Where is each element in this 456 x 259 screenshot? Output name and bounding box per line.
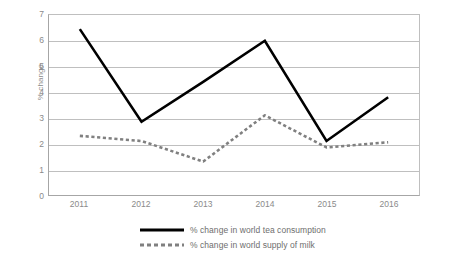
dotted-line-swatch [140, 240, 184, 250]
line-chart: % change 01234567 2011201220132014201520… [0, 0, 456, 259]
y-tick-label: 7 [26, 10, 44, 19]
x-tick-label: 2011 [70, 200, 88, 209]
series-line-milk-supply [80, 115, 388, 161]
x-tick-label: 2013 [194, 200, 213, 209]
y-tick-label: 1 [26, 166, 44, 175]
y-tick-label: 6 [26, 36, 44, 45]
x-tick-label: 2015 [318, 200, 337, 209]
x-tick-label: 2014 [256, 200, 275, 209]
solid-line-swatch [140, 225, 184, 235]
legend-item-tea-consumption: % change in world tea consumption [0, 222, 456, 237]
series-line-tea-consumption [80, 29, 388, 141]
y-tick-label: 2 [26, 140, 44, 149]
chart-legend: % change in world tea consumption % chan… [0, 222, 456, 252]
x-tick-label: 2016 [380, 200, 399, 209]
data-series-layer [49, 15, 419, 195]
x-axis-tick-labels: 201120122013201420152016 [48, 200, 420, 214]
x-tick-label: 2012 [132, 200, 151, 209]
legend-label-tea-consumption: % change in world tea consumption [190, 225, 326, 235]
plot-area [48, 14, 420, 196]
legend-item-milk-supply: % change in world supply of milk [0, 237, 456, 252]
y-tick-label: 5 [26, 62, 44, 71]
y-tick-label: 0 [26, 192, 44, 201]
legend-label-milk-supply: % change in world supply of milk [190, 240, 315, 250]
y-tick-label: 3 [26, 114, 44, 123]
y-axis-tick-labels: 01234567 [26, 14, 44, 196]
y-tick-label: 4 [26, 88, 44, 97]
